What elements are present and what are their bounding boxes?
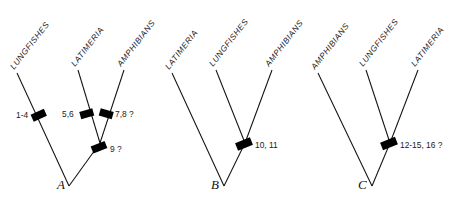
panel-c-tree: AMPHIBIANS LUNGFISHES LATIMERIA 12-15, 1… xyxy=(0,0,459,201)
char-label-12-16: 12-15, 16 ? xyxy=(400,140,443,150)
branch-lungfishes-c xyxy=(366,70,390,143)
panel-c-taxon-labels: AMPHIBIANS LUNGFISHES LATIMERIA xyxy=(309,17,446,72)
branch-stem-c xyxy=(372,143,390,186)
tip-label-lungfishes-c: LUNGFISHES xyxy=(357,17,400,68)
panel-c-character-labels: 12-15, 16 ? xyxy=(400,140,443,150)
branch-latimeria-c xyxy=(390,70,418,143)
panel-c-branches xyxy=(318,70,418,186)
panel-letter-c: C xyxy=(358,177,367,192)
tip-label-latimeria-c: LATIMERIA xyxy=(409,25,445,68)
tip-label-amphibians-c: AMPHIBIANS xyxy=(309,22,351,72)
branch-amphibians-c xyxy=(318,73,372,186)
phylogenetic-tree-figure: LUNGFISHES LATIMERIA AMPHIBIANS 1-4 5,6 … xyxy=(0,0,459,201)
